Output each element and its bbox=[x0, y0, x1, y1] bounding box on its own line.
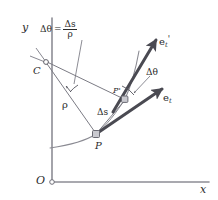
point-P-label: P bbox=[95, 141, 102, 151]
figure-root: y x O C P P' ρ Δs Δθ et et' Δθ=Δsρ bbox=[0, 0, 218, 200]
point-P-marker-icon bbox=[93, 131, 100, 138]
formula-equals-sign: = bbox=[52, 24, 64, 34]
origin-marker-icon bbox=[50, 180, 55, 185]
angle-label-leader-line bbox=[134, 76, 150, 93]
formula-left-hand-side: Δθ bbox=[40, 24, 52, 34]
x-axis-label: x bbox=[200, 184, 206, 195]
point-P-prime-label: P' bbox=[113, 87, 121, 95]
formula-denominator: ρ bbox=[63, 30, 76, 39]
unit-tangent-vector-at-P-prime-mark: ' bbox=[168, 34, 170, 44]
delta-theta-label: Δθ bbox=[146, 68, 158, 77]
point-P-prime-marker-icon bbox=[122, 96, 128, 102]
unit-tangent-vector-at-P-label: et bbox=[163, 93, 172, 105]
unit-tangent-vector-at-P-prime-label: et' bbox=[159, 35, 170, 48]
arc-length-label: Δs bbox=[97, 108, 108, 117]
path-curve-upper bbox=[125, 51, 139, 99]
center-of-curvature-label: C bbox=[33, 66, 41, 76]
y-axis-label: y bbox=[22, 22, 28, 33]
angle-arc-at-center bbox=[70, 85, 78, 92]
diagram-canvas bbox=[0, 0, 218, 200]
path-curve-lower bbox=[50, 134, 96, 148]
formula-fraction: Δsρ bbox=[63, 20, 76, 40]
curvature-formula: Δθ=Δsρ bbox=[40, 20, 77, 40]
angle-arc-at-center-group bbox=[66, 85, 78, 92]
unit-tangent-vector-at-P-subscript: t bbox=[169, 97, 172, 105]
radius-of-curvature-label: ρ bbox=[62, 100, 68, 110]
center-of-curvature-marker-icon bbox=[44, 60, 49, 65]
origin-label: O bbox=[36, 175, 45, 186]
